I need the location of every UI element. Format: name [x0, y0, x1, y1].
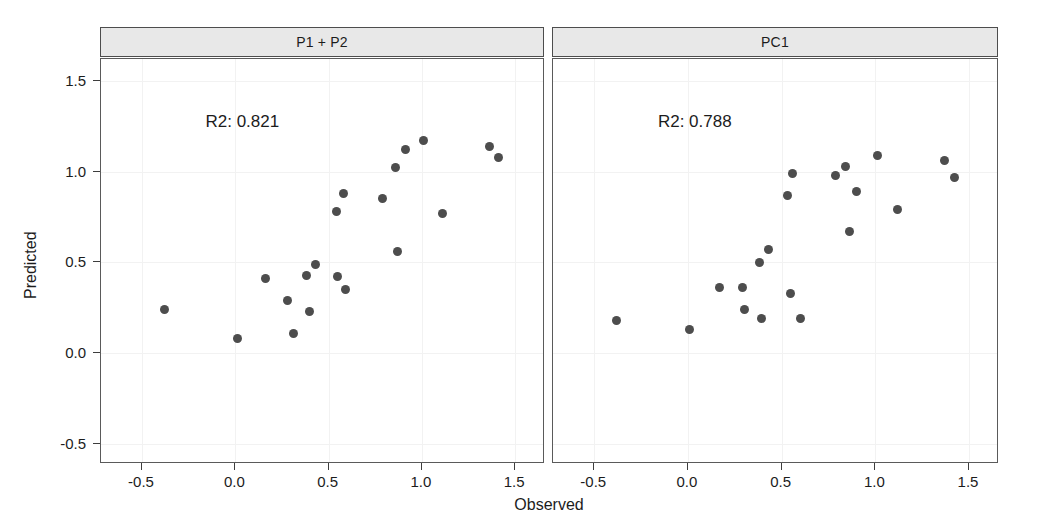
scatter-figure: P1 + P2 PC1 R2: 0.821 R2: 0.788 -0.50.00…: [0, 0, 1044, 532]
data-point: [788, 169, 797, 178]
gridline-horizontal: [101, 444, 543, 445]
data-point: [378, 194, 387, 203]
data-point: [612, 316, 621, 325]
data-point: [339, 189, 348, 198]
y-axis-tick-label: 0.0: [40, 344, 86, 361]
y-axis-title: Predicted: [22, 231, 40, 299]
data-point: [783, 191, 792, 200]
y-axis-tick-label: -0.5: [40, 435, 86, 452]
x-axis-tick: [593, 463, 594, 470]
data-point: [845, 227, 854, 236]
data-point: [740, 305, 749, 314]
gridline-vertical: [688, 59, 689, 462]
data-point: [160, 305, 169, 314]
scatter-panel-2: R2: 0.788: [552, 58, 998, 463]
x-axis-tick-label: 0.0: [676, 473, 697, 490]
x-axis-tick-label: 1.5: [504, 473, 525, 490]
data-point: [685, 325, 694, 334]
x-axis-tick: [141, 463, 142, 470]
x-axis-tick-label: 0.5: [770, 473, 791, 490]
panel-strip-header-2: PC1: [552, 27, 998, 57]
y-axis-tick-label: 1.0: [40, 162, 86, 179]
data-point: [419, 136, 428, 145]
data-point: [289, 329, 298, 338]
data-point: [494, 153, 503, 162]
data-point: [332, 207, 341, 216]
x-axis-tick-label: 0.0: [224, 473, 245, 490]
data-point: [764, 245, 773, 254]
data-point: [757, 314, 766, 323]
x-axis-tick: [514, 463, 515, 470]
gridline-horizontal: [553, 262, 997, 263]
gridline-horizontal: [553, 81, 997, 82]
data-point: [305, 307, 314, 316]
data-point: [831, 171, 840, 180]
panel-strip-header-1: P1 + P2: [100, 27, 544, 57]
x-axis-tick: [421, 463, 422, 470]
y-axis-tick-label: 0.5: [40, 253, 86, 270]
gridline-vertical: [235, 59, 236, 462]
gridline-vertical: [515, 59, 516, 462]
y-axis-tick: [93, 171, 100, 172]
data-point: [950, 173, 959, 182]
data-point: [893, 205, 902, 214]
data-point: [283, 296, 292, 305]
data-point: [393, 247, 402, 256]
data-point: [841, 162, 850, 171]
r2-annotation-2: R2: 0.788: [658, 112, 732, 132]
gridline-horizontal: [553, 444, 997, 445]
y-axis-tick-label: 1.5: [40, 71, 86, 88]
x-axis-title: Observed: [514, 496, 583, 514]
data-point: [302, 271, 311, 280]
data-point: [333, 272, 342, 281]
data-point: [261, 274, 270, 283]
gridline-vertical: [875, 59, 876, 462]
data-point: [438, 209, 447, 218]
strip-label-2: PC1: [761, 34, 789, 50]
gridline-vertical: [782, 59, 783, 462]
data-point: [715, 283, 724, 292]
gridline-vertical: [142, 59, 143, 462]
data-point: [233, 334, 242, 343]
data-point: [401, 145, 410, 154]
gridline-vertical: [969, 59, 970, 462]
y-axis-tick: [93, 80, 100, 81]
gridline-horizontal: [553, 353, 997, 354]
data-point: [755, 258, 764, 267]
x-axis-tick: [328, 463, 329, 470]
y-axis-tick: [93, 352, 100, 353]
gridline-horizontal: [101, 353, 543, 354]
gridline-vertical: [422, 59, 423, 462]
gridline-horizontal: [101, 172, 543, 173]
data-point: [873, 151, 882, 160]
gridline-horizontal: [101, 81, 543, 82]
x-axis-tick-label: 1.0: [864, 473, 885, 490]
data-point: [940, 156, 949, 165]
x-axis-tick: [781, 463, 782, 470]
data-point: [738, 283, 747, 292]
x-axis-tick-label: 0.5: [317, 473, 338, 490]
data-point: [485, 142, 494, 151]
gridline-horizontal: [101, 262, 543, 263]
x-axis-tick-label: 1.0: [410, 473, 431, 490]
strip-label-1: P1 + P2: [296, 34, 348, 50]
gridline-vertical: [329, 59, 330, 462]
r2-annotation-1: R2: 0.821: [205, 112, 279, 132]
x-axis-tick-label: -0.5: [580, 473, 606, 490]
data-point: [311, 260, 320, 269]
x-axis-tick-label: 1.5: [958, 473, 979, 490]
x-axis-tick-label: -0.5: [128, 473, 154, 490]
x-axis-tick: [968, 463, 969, 470]
x-axis-tick: [874, 463, 875, 470]
scatter-panel-1: R2: 0.821: [100, 58, 544, 463]
data-point: [786, 289, 795, 298]
data-point: [796, 314, 805, 323]
x-axis-tick: [234, 463, 235, 470]
y-axis-tick: [93, 261, 100, 262]
y-axis-tick: [93, 443, 100, 444]
x-axis-tick: [687, 463, 688, 470]
data-point: [852, 187, 861, 196]
gridline-vertical: [594, 59, 595, 462]
gridline-horizontal: [553, 172, 997, 173]
data-point: [341, 285, 350, 294]
